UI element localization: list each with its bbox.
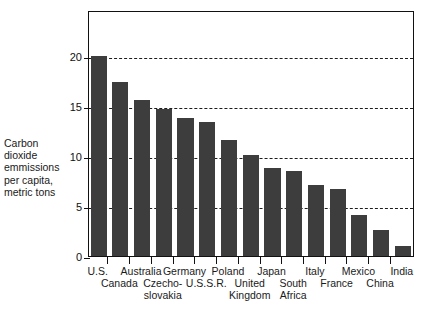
x-axis-tick-label: Canada bbox=[101, 277, 138, 289]
x-axis-tick-label: Germany bbox=[163, 265, 206, 277]
bar bbox=[177, 118, 193, 256]
x-axis-tick-label: France bbox=[320, 277, 353, 289]
x-axis-tick bbox=[194, 257, 195, 264]
bar bbox=[112, 82, 128, 256]
bar bbox=[373, 230, 389, 256]
y-axis-title-line-3: emmissions bbox=[4, 161, 76, 173]
x-axis-tick bbox=[238, 257, 239, 264]
bar bbox=[286, 171, 302, 256]
plot-area bbox=[88, 11, 414, 257]
bar bbox=[395, 246, 411, 256]
bar bbox=[264, 168, 280, 256]
x-axis-tick-label: China bbox=[366, 277, 393, 289]
y-axis-tick bbox=[84, 258, 90, 259]
x-axis-tick bbox=[346, 257, 347, 264]
x-axis-tick bbox=[303, 257, 304, 264]
y-axis-title: Carbon dioxide emmissions per capita, me… bbox=[4, 137, 76, 198]
x-axis-tick-label: Mexico bbox=[342, 265, 375, 277]
x-axis-tick bbox=[390, 257, 391, 264]
x-axis-tick-label: Japan bbox=[257, 265, 286, 277]
x-axis-tick-label: Poland bbox=[212, 265, 245, 277]
y-axis-tick-label: 15 bbox=[56, 101, 82, 113]
x-axis-tick-label: United bbox=[235, 277, 265, 289]
bar bbox=[243, 155, 259, 256]
bar bbox=[134, 100, 150, 256]
x-axis-tick bbox=[368, 257, 369, 264]
bar bbox=[308, 185, 324, 256]
y-axis-title-line-1: Carbon bbox=[4, 137, 76, 149]
y-axis-tick-label: 20 bbox=[56, 51, 82, 63]
bar bbox=[156, 109, 172, 256]
y-axis-tick-label: 0 bbox=[56, 251, 82, 263]
x-axis-tick-label: India bbox=[390, 265, 413, 277]
x-axis-tick-label: South bbox=[279, 277, 306, 289]
bar bbox=[91, 56, 107, 256]
bar-series bbox=[89, 12, 413, 256]
bar bbox=[199, 122, 215, 256]
x-axis-tick-label: Czecho- bbox=[143, 277, 182, 289]
x-axis-tick bbox=[151, 257, 152, 264]
x-axis-tick bbox=[129, 257, 130, 264]
x-axis-tick bbox=[260, 257, 261, 264]
x-axis-tick bbox=[173, 257, 174, 264]
x-axis-tick-label: Kingdom bbox=[229, 289, 270, 301]
bar bbox=[351, 215, 367, 256]
y-axis-tick-label: 5 bbox=[56, 201, 82, 213]
x-axis-tick bbox=[216, 257, 217, 264]
x-axis-tick-label: slovakia bbox=[144, 289, 182, 301]
y-axis-title-line-4: per capita, bbox=[4, 174, 76, 186]
x-axis-tick-label: Italy bbox=[305, 265, 324, 277]
x-axis-tick-label: Australia bbox=[121, 265, 162, 277]
x-axis-tick bbox=[107, 257, 108, 264]
x-axis-tick bbox=[281, 257, 282, 264]
bar-chart: Carbon dioxide emmissions per capita, me… bbox=[0, 0, 425, 309]
x-axis-tick-label: U.S.S.R. bbox=[186, 277, 227, 289]
y-axis-title-line-5: metric tons bbox=[4, 186, 76, 198]
y-axis-tick-label: 10 bbox=[56, 151, 82, 163]
x-axis-tick-label: Africa bbox=[280, 289, 307, 301]
bar bbox=[221, 140, 237, 256]
x-axis-tick-label: U.S. bbox=[87, 265, 107, 277]
bar bbox=[330, 189, 346, 256]
x-axis-tick bbox=[325, 257, 326, 264]
